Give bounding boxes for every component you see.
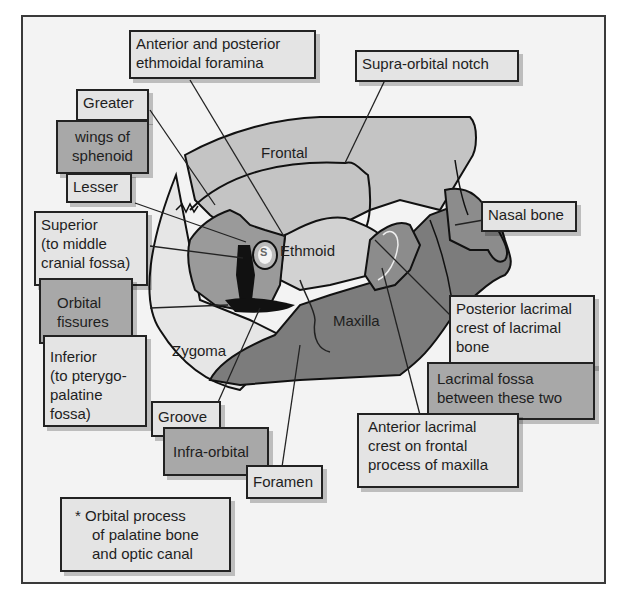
callout-lacrimal-fossa: Lacrimal fossa between these two [427,362,595,420]
callout-text: fossa) [50,404,140,423]
callout-text: Anterior and posterior [136,34,309,53]
ethmoid-label: Ethmoid [280,242,335,259]
zygoma-label: Zygoma [172,342,226,359]
callout-text: ethmoidal foramina [136,53,309,72]
callout-supra-orbital-notch: Supra-orbital notch [355,50,519,82]
callout-text: cranial fossa) [41,253,141,272]
callout-inferior-fissure: Inferior (to pterygo- palatine fossa) [43,335,147,427]
callout-text: process of maxilla [368,455,512,474]
callout-anterior-lacrimal-crest: Anterior lacrimal crest on frontal proce… [357,413,519,488]
footnote-box: * Orbital process of palatine bone and o… [60,497,231,572]
callout-text: sphenoid [63,146,142,165]
callout-text: Inferior [50,347,140,366]
callout-text: Greater [83,93,142,112]
callout-posterior-lacrimal-crest: Posterior lacrimal crest of lacrimal bon… [449,295,595,367]
callout-text: Anterior lacrimal [368,417,512,436]
inferior-orbital-fissure [225,298,295,313]
callout-text: Supra-orbital notch [362,54,512,73]
callout-ethmoidal-foramina: Anterior and posterior ethmoidal foramin… [129,30,316,79]
s-marker-label: S [260,246,267,258]
callout-text: Foramen [253,472,316,491]
callout-text: bone [456,337,588,356]
callout-text: Superior [41,215,141,234]
callout-text: between these two [437,388,585,407]
callout-text: Orbital [57,293,131,312]
callout-lesser: Lesser [66,173,132,203]
callout-text: palatine [50,385,140,404]
frontal-label: Frontal [261,144,308,161]
callout-text: (to pterygo- [50,366,140,385]
callout-text: Infra-orbital [173,442,267,461]
footnote-text: * Orbital process [75,506,229,525]
callout-wings-of-sphenoid: wings of sphenoid [56,120,149,174]
callout-text: Nasal bone [488,205,570,224]
callout-text: Lacrimal fossa [437,369,585,388]
callout-text: (to middle [41,234,141,253]
callout-text: crest of lacrimal [456,318,588,337]
callout-text: fissures [57,312,131,331]
callout-text: Posterior lacrimal [456,299,588,318]
footnote-text: of palatine bone [75,525,229,544]
callout-nasal-bone: Nasal bone [481,201,577,232]
footnote-text: and optic canal [75,544,229,563]
callout-greater: Greater [76,89,149,121]
callout-superior-fissure: Superior (to middle cranial fossa) [34,211,148,286]
callout-text: crest on frontal [368,436,512,455]
callout-text: Groove [158,407,214,426]
maxilla-label: Maxilla [333,312,380,329]
callout-text: Lesser [73,177,125,196]
callout-text: wings of [63,127,142,146]
callout-foramen: Foramen [246,465,323,499]
